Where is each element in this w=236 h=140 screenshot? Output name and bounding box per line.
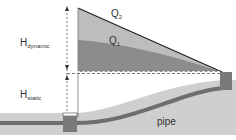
q2-main: Q	[111, 8, 119, 19]
q1-sub: 1	[117, 41, 120, 47]
well-rim	[63, 113, 77, 116]
pipe-label: pipe	[157, 117, 176, 127]
arrow-up-icon	[65, 6, 69, 11]
arrow-down-icon	[65, 65, 69, 70]
q1-main: Q	[109, 35, 117, 46]
h-dynamic-sub: dynamic	[27, 43, 49, 49]
q2-label: Q2	[111, 9, 122, 20]
h-static-sub: static	[27, 95, 41, 101]
q2-sub: 2	[119, 14, 122, 20]
hydraulic-head-diagram	[0, 0, 236, 140]
upper-tank	[220, 72, 232, 90]
h-static-label: Hstatic	[20, 90, 41, 101]
q1-label: Q1	[109, 36, 120, 47]
lower-well	[63, 116, 77, 132]
h-dynamic-label: Hdynamic	[20, 38, 50, 49]
arrow-up-icon	[65, 75, 69, 80]
